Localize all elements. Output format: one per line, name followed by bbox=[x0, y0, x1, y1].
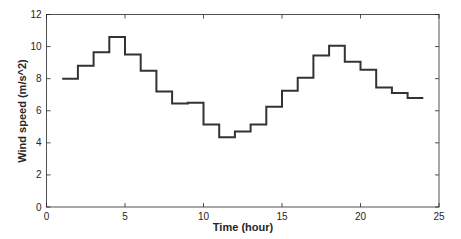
x-tick-label: 5 bbox=[122, 211, 128, 222]
plot-frame bbox=[47, 15, 440, 208]
plot-box bbox=[47, 15, 440, 208]
y-tick-label: 12 bbox=[30, 9, 42, 20]
y-tick-label: 6 bbox=[36, 105, 42, 116]
x-tick-label: 20 bbox=[355, 211, 367, 222]
x-tick-label: 25 bbox=[433, 211, 445, 222]
x-tick-label: 15 bbox=[276, 211, 288, 222]
y-axis-label: Wind speed (m/s^2) bbox=[16, 59, 28, 163]
y-tick-label: 8 bbox=[36, 73, 42, 84]
x-tick-label: 10 bbox=[198, 211, 210, 222]
y-tick-label: 10 bbox=[30, 41, 42, 52]
x-tick-label: 0 bbox=[44, 211, 50, 222]
x-axis-ticks: 0510152025 bbox=[44, 15, 445, 223]
y-tick-label: 2 bbox=[36, 169, 42, 180]
y-axis-ticks: 024681012 bbox=[30, 9, 439, 213]
y-tick-label: 4 bbox=[36, 137, 42, 148]
series-line-wind-speed bbox=[62, 37, 423, 137]
y-tick-label: 0 bbox=[36, 202, 42, 213]
wind-speed-chart: 0510152025 024681012 Time (hour) Wind sp… bbox=[0, 0, 461, 239]
series-layer bbox=[62, 37, 423, 137]
x-axis-label: Time (hour) bbox=[213, 221, 274, 233]
